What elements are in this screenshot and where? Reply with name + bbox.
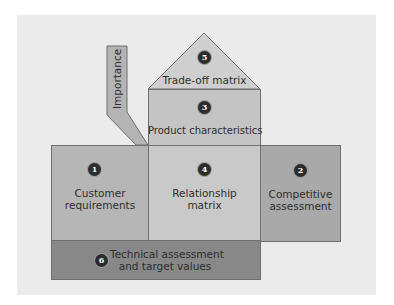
technical-assessment-label-line1: Technical assessment — [110, 248, 220, 260]
number-badge-2: 2 — [294, 164, 307, 177]
relationship-matrix-label-line1: Relationship — [148, 187, 261, 199]
competitive-assessment-label-line1: Competitive — [260, 188, 341, 200]
relationship-matrix-label-line2: matrix — [148, 199, 261, 211]
product-characteristics-box — [148, 89, 261, 146]
importance-label: Importance — [111, 49, 123, 109]
customer-requirements-label-line1: Customer — [51, 187, 149, 199]
number-badge-6: 6 — [95, 254, 108, 267]
number-badge-1: 1 — [88, 163, 101, 176]
number-badge-5: 5 — [198, 51, 211, 64]
customer-requirements-label-line2: requirements — [51, 199, 149, 211]
trade-off-matrix-label: Trade-off matrix — [148, 74, 261, 86]
competitive-assessment-label-line2: assessment — [260, 200, 341, 212]
number-badge-3: 3 — [198, 101, 211, 114]
product-characteristics-label: Product characteristics — [148, 125, 261, 137]
technical-assessment-label-line2: and target values — [110, 260, 220, 272]
number-badge-4: 4 — [198, 163, 211, 176]
